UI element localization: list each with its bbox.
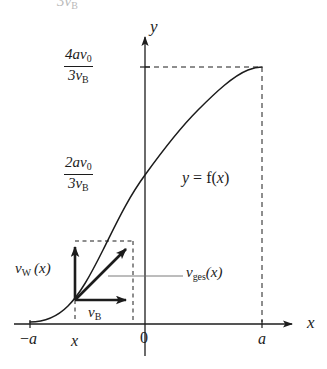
- vector-vges: [75, 249, 126, 300]
- clipped-text-above: 3vB: [57, 0, 78, 11]
- x-tick-label-x: x: [71, 333, 78, 349]
- y-axis-label: y: [150, 18, 158, 35]
- x-tick-label-neg-a: −a: [20, 331, 37, 347]
- figure-canvas: [0, 0, 327, 369]
- figure-container: 3vB y x 4av0 3vB 2av0 3vB y = f(x) vW (x…: [0, 0, 327, 369]
- y-value-label-upper: 4av0 3vB: [64, 47, 93, 85]
- x-tick-label-a: a: [258, 331, 266, 347]
- function-curve: [30, 67, 262, 322]
- x-tick-label-origin: 0: [140, 330, 148, 346]
- y-value-upper-numerator: 4av0: [64, 47, 93, 64]
- vector-label-vges: vges(x): [186, 265, 223, 282]
- y-value-label-lower: 2av0 3vB: [64, 155, 93, 193]
- y-value-upper-denominator: 3vB: [64, 68, 93, 85]
- x-axis-label: x: [307, 314, 315, 331]
- vector-label-vb: vB: [88, 305, 101, 322]
- y-value-lower-numerator: 2av0: [64, 155, 93, 172]
- vector-label-vw: vW (x): [15, 261, 51, 278]
- y-value-lower-denominator: 3vB: [64, 176, 93, 193]
- curve-equation-label: y = f(x): [182, 170, 229, 186]
